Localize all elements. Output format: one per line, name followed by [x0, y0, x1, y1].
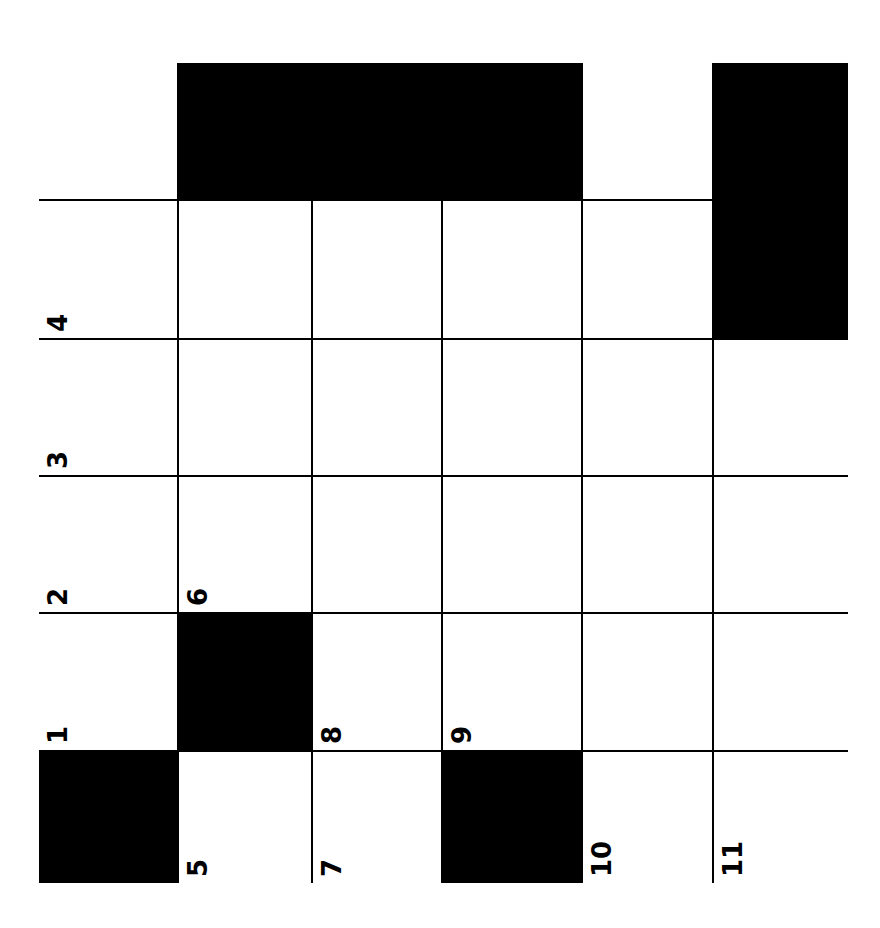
crossword-cell[interactable] — [583, 614, 714, 752]
clue-number: 10 — [589, 841, 615, 877]
crossword-cell[interactable] — [179, 340, 313, 477]
crossword-cell[interactable] — [583, 63, 714, 201]
crossword-cell[interactable]: 4 — [39, 201, 179, 340]
clue-number: 2 — [45, 588, 71, 606]
crossword-cell[interactable]: 1 — [39, 614, 179, 752]
crossword-cell[interactable]: 3 — [39, 340, 179, 477]
block-cell — [39, 752, 179, 883]
clue-number: 1 — [45, 726, 71, 744]
block-cell — [313, 63, 443, 201]
crossword-grid: 4326189571011 — [39, 63, 848, 883]
block-cell — [443, 63, 583, 201]
crossword-cell[interactable]: 10 — [583, 752, 714, 883]
crossword-cell[interactable] — [443, 340, 583, 477]
crossword-cell[interactable] — [583, 477, 714, 614]
block-cell — [714, 201, 848, 340]
crossword-cell[interactable] — [313, 477, 443, 614]
crossword-cell[interactable] — [313, 201, 443, 340]
crossword-cell[interactable]: 8 — [313, 614, 443, 752]
crossword-cell[interactable]: 2 — [39, 477, 179, 614]
crossword-cell[interactable] — [714, 477, 848, 614]
crossword-cell[interactable] — [443, 201, 583, 340]
clue-number: 9 — [449, 726, 475, 744]
crossword-cell[interactable] — [714, 340, 848, 477]
crossword-cell[interactable] — [714, 614, 848, 752]
crossword-cell[interactable]: 9 — [443, 614, 583, 752]
crossword-cell[interactable] — [443, 477, 583, 614]
block-cell — [179, 614, 313, 752]
crossword-cell[interactable] — [39, 63, 179, 201]
clue-number: 5 — [185, 859, 211, 877]
clue-number: 8 — [319, 726, 345, 744]
page: 4326189571011 — [0, 0, 880, 928]
crossword-cell[interactable]: 11 — [714, 752, 848, 883]
clue-number: 6 — [185, 588, 211, 606]
crossword-cell[interactable]: 7 — [313, 752, 443, 883]
clue-number: 3 — [45, 451, 71, 469]
block-cell — [714, 63, 848, 201]
crossword-cell[interactable]: 5 — [179, 752, 313, 883]
clue-number: 11 — [720, 841, 746, 877]
crossword-cell[interactable] — [583, 340, 714, 477]
crossword-cell[interactable]: 6 — [179, 477, 313, 614]
crossword-cell[interactable] — [583, 201, 714, 340]
crossword-cell[interactable] — [313, 340, 443, 477]
block-cell — [179, 63, 313, 201]
block-cell — [443, 752, 583, 883]
crossword-cell[interactable] — [179, 201, 313, 340]
clue-number: 7 — [319, 859, 345, 877]
clue-number: 4 — [45, 314, 71, 332]
